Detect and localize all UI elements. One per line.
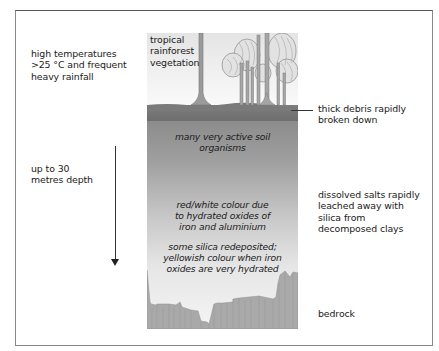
leaching-label: dissolved salts rapidly leached away wit… bbox=[318, 189, 420, 235]
silica-label: some silica redeposited; yellowish colou… bbox=[140, 241, 305, 275]
soil-profile-column bbox=[147, 33, 298, 329]
vegetation-label: tropical rainforest vegetation bbox=[150, 34, 199, 68]
organisms-label: many very active soil organisms bbox=[147, 131, 298, 153]
depth-arrow-line bbox=[115, 146, 116, 262]
climate-label: high temperatures >25 °C and frequent he… bbox=[31, 48, 127, 82]
debris-label: thick debris rapidly broken down bbox=[318, 103, 406, 126]
bedrock-label: bedrock bbox=[318, 308, 355, 319]
depth-arrow-head-icon bbox=[111, 259, 119, 266]
colour-label: red/white colour due to hydrated oxides … bbox=[147, 199, 298, 233]
rainforest-trees-icon bbox=[147, 33, 298, 329]
depth-label: up to 30 metres depth bbox=[31, 163, 93, 186]
debris-leader-line bbox=[291, 110, 313, 111]
